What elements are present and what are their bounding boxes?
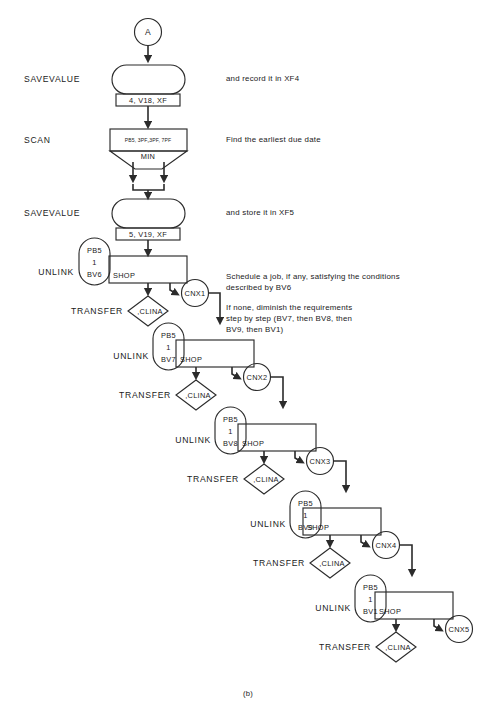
edge-unlink-bv6-to-cnx1 [170,283,177,294]
edge-cnx3-to-unlink-bv9 [333,461,346,490]
stage-label-savevalue-1: SAVEVALUE [24,74,80,84]
unlink-bv6-cond-0: PB5 [87,246,102,255]
unlink-bv1-block-label: SHOP [379,607,401,616]
transfer-label-bv9: TRANSFER [253,558,305,568]
transfer-label-bv8: TRANSFER [187,474,239,484]
stage-label-unlink-bv8: UNLINK [175,435,211,445]
unlink-bv8-block-label: SHOP [242,439,264,448]
unlink-bv6-block-label: SHOP [113,271,135,280]
unlink-bv6-cond-2: BV6 [87,270,102,279]
edge-unlink-bv1-to-cnx5 [434,619,441,630]
unlink-bv7-cond-2: BV7 [161,355,176,364]
unlink-bv6-cond-1: 1 [92,258,96,267]
edge-cnx1-to-unlink-bv7 [208,293,220,322]
stage-label-scan-1: SCAN [24,135,51,145]
connector-cnx3-label: CNX3 [310,457,331,466]
connector-cnx4-label: CNX4 [376,541,397,550]
scan-1-operands: PB5, 3PF„3PF, 7PF [125,137,172,143]
stage-label-unlink-bv1: UNLINK [315,603,351,613]
connector-cnx1-label: CNX1 [185,289,206,298]
note-schedule-line-2: described by BV6 [226,283,291,293]
note-diminish-line-2: step by step (BV7, then BV8, then [226,314,352,324]
unlink-bv1-cond-0: PB5 [363,583,378,592]
unlink-bv8-cond-1: 1 [228,427,232,436]
unlink-bv1-cond-2: BV1 [363,607,378,616]
edge-unlink-bv9-to-cnx4 [361,535,368,546]
transfer-target-bv1: ,CLINA [385,643,411,652]
transfer-label-bv7: TRANSFER [119,390,171,400]
savevalue-1-shape [112,65,185,94]
unlink-bv8-cond-0: PB5 [223,415,238,424]
unlink-bv1-cond-1: 1 [368,595,372,604]
transfer-target-bv7: ,CLINA [185,391,211,400]
transfer-target-bv8: ,CLINA [253,475,279,484]
flowchart-vector-layer [0,0,497,713]
edge-cnx4-to-unlink-bv1 [399,545,412,574]
edge-unlink-bv7-to-cnx2 [232,367,239,378]
note-diminish-line-3: BV9, then BV1) [226,325,283,335]
edge-cnx2-to-unlink-bv8 [270,377,283,406]
connector-a-label: A [145,27,151,37]
scan-1-mode: MIN [141,152,155,161]
stage-label-unlink-bv7: UNLINK [113,351,149,361]
transfer-label-bv6: TRANSFER [71,306,123,316]
stage-label-unlink-bv6: UNLINK [38,267,74,277]
unlink-bv9-cond-1: 1 [303,511,307,520]
note-savevalue-1: and record it in XF4 [226,74,299,84]
stage-label-savevalue-2: SAVEVALUE [24,208,80,218]
unlink-bv8-cond-2: BV8 [223,439,238,448]
flowchart-canvas: A SAVEVALUE 4, V18, XF and record it in … [0,0,497,713]
unlink-bv7-block-label: SHOP [180,355,202,364]
note-schedule-line-1: Schedule a job, if any, satisfying the c… [226,272,400,282]
unlink-bv9-cond-0: PB5 [298,499,313,508]
connector-cnx5-label: CNX5 [449,625,470,634]
transfer-target-bv9: ,CLINA [319,559,345,568]
unlink-bv9-block-label: SHOP [307,523,329,532]
edge-scan-merge-bar [133,184,164,190]
stage-label-unlink-bv9: UNLINK [250,519,286,529]
transfer-label-bv1: TRANSFER [319,642,371,652]
note-savevalue-2: and store it in XF5 [226,208,294,218]
savevalue-1-operands: 4, V18, XF [129,96,167,105]
transfer-target-bv6: ,CLINA [137,307,163,316]
savevalue-2-shape [112,199,185,228]
edge-unlink-bv8-to-cnx3 [295,451,302,462]
note-diminish-line-1: If none, diminish the requirements [226,303,352,313]
note-scan-1: Find the earliest due date [226,135,321,145]
savevalue-2-operands: 5, V19, XF [129,230,167,239]
unlink-bv7-cond-1: 1 [166,343,170,352]
connector-cnx2-label: CNX2 [247,373,268,382]
unlink-bv7-cond-0: PB5 [161,331,176,340]
figure-caption: (b) [243,689,253,698]
